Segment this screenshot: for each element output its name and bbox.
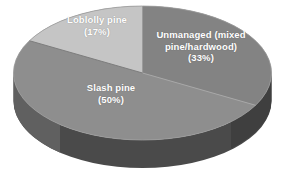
pie-chart: Loblolly pine (17%) Unmanaged (mixed pin… bbox=[0, 0, 285, 179]
pie-top-surface bbox=[14, 6, 272, 140]
pie-chart-graphic bbox=[0, 0, 285, 179]
